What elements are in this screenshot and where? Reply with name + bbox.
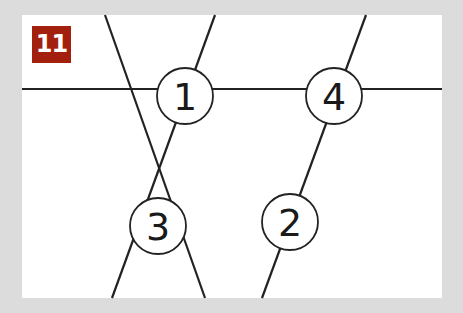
node-1: 1 <box>157 68 213 124</box>
node-label: 1 <box>173 75 197 119</box>
node-2: 2 <box>262 194 318 250</box>
node-label: 3 <box>146 205 170 249</box>
diagram-panel <box>22 15 442 298</box>
node-label: 4 <box>322 75 346 119</box>
figure-number-badge: 11 <box>32 26 71 63</box>
node-4: 4 <box>306 68 362 124</box>
node-label: 2 <box>278 201 302 245</box>
node-3: 3 <box>130 198 186 254</box>
